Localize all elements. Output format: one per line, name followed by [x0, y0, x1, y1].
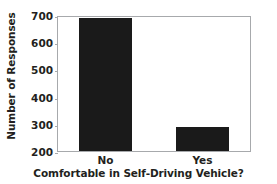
x-tick-label-no: No [57, 153, 154, 167]
bar-chart: Number of Responses 200300400500600700 N… [0, 0, 277, 184]
y-tick-mark [55, 99, 58, 100]
x-axis-tick-labels: NoYes [57, 153, 251, 168]
y-tick-label: 600 [25, 38, 53, 48]
x-axis-title: Comfortable in Self-Driving Vehicle? [0, 167, 277, 179]
y-axis-title: Number of Responses [3, 0, 19, 152]
y-tick-label: 700 [25, 11, 53, 21]
x-tick-label-yes: Yes [154, 153, 251, 167]
y-tick-label: 300 [25, 120, 53, 130]
y-tick-label: 200 [25, 147, 53, 157]
y-tick-label: 400 [25, 93, 53, 103]
y-tick-label: 500 [25, 65, 53, 75]
y-tick-mark [55, 71, 58, 72]
y-tick-mark [55, 17, 58, 18]
bar-no [79, 18, 132, 151]
y-axis-tick-labels: 200300400500600700 [19, 0, 53, 184]
plot-area [57, 16, 251, 152]
y-tick-mark [55, 126, 58, 127]
y-tick-mark [55, 44, 58, 45]
bar-yes [176, 127, 229, 151]
